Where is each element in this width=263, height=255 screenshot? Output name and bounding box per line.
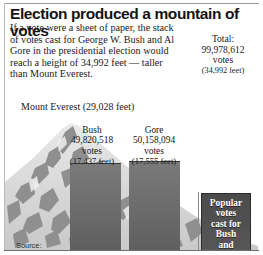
column-divider xyxy=(198,192,199,250)
bar-total-line-5: and xyxy=(202,240,250,250)
total-label: Total: xyxy=(186,34,260,45)
bar-total-label: Popular votes cast for Bush and Gore xyxy=(202,198,250,250)
bar-total-line-2: votes xyxy=(202,208,250,218)
bar-total-popular-votes: Popular votes cast for Bush and Gore xyxy=(201,193,251,250)
bottom-divider xyxy=(4,250,259,251)
bar-bush xyxy=(70,163,121,250)
bar-total-line-3: cast for xyxy=(202,219,250,229)
top-divider xyxy=(4,3,259,4)
intro-paragraph: If a vote were a sheet of paper, the sta… xyxy=(10,22,182,80)
total-callout: Total: 99,978,612 votes (34,992 feet) xyxy=(186,34,260,76)
infographic-panel: Election produced a mountain of votes If… xyxy=(0,0,263,255)
bar-gore xyxy=(129,161,180,250)
bar-label-gore-votes-word: votes xyxy=(117,146,191,156)
source-credit: Source: USA TODAY research xyxy=(16,242,57,250)
total-votes-word: votes xyxy=(186,55,260,66)
bar-label-gore-feet: (17,555 feet) xyxy=(117,156,191,166)
bar-label-gore: Gore 50,158,094 votes (17,555 feet) xyxy=(117,125,191,167)
everest-reference-label: Mount Everest (29,028 feet) xyxy=(21,101,134,112)
bar-label-gore-votes: 50,158,094 xyxy=(117,135,191,145)
bar-total-line-4: Bush xyxy=(202,229,250,239)
bar-label-gore-name: Gore xyxy=(117,125,191,135)
total-feet: (34,992 feet) xyxy=(186,66,260,77)
bar-total-line-1: Popular xyxy=(202,198,250,208)
